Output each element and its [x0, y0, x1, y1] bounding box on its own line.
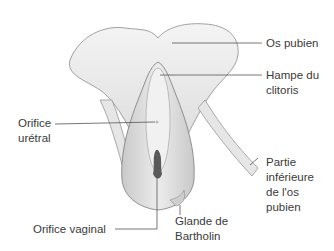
- label-partie-inferieure-os-pubien: Partie inférieure de l'os pubien: [266, 155, 314, 215]
- label-hampe-clitoris: Hampe du clitoris: [266, 68, 319, 98]
- label-orifice-uretral: Orifice urétral: [18, 116, 51, 146]
- label-orifice-vaginal: Orifice vaginal: [33, 222, 106, 237]
- label-os-pubien: Os pubien: [266, 36, 318, 51]
- label-glande-bartholin: Glande de Bartholin: [175, 214, 228, 244]
